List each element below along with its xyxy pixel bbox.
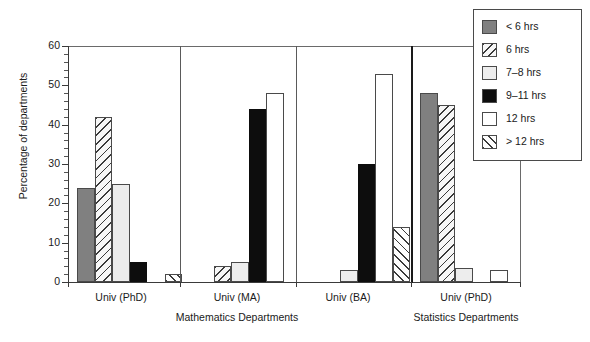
legend-item-2: 7–8 hrs bbox=[482, 64, 541, 81]
y-tick-label-text: 10 bbox=[32, 237, 60, 247]
legend-item-0: < 6 hrs bbox=[482, 18, 538, 35]
x-group-label-2: Univ (BA) bbox=[293, 291, 403, 303]
y-minor-tick bbox=[64, 235, 68, 236]
bar-univphd-1 bbox=[95, 117, 113, 282]
y-axis-title: Percentage of departments bbox=[17, 36, 29, 236]
legend-label-0: < 6 hrs bbox=[506, 21, 538, 32]
legend-label-2: 7–8 hrs bbox=[506, 67, 541, 78]
bar-univba-4 bbox=[375, 74, 393, 282]
y-tick-label-text: 50 bbox=[32, 79, 60, 89]
y-minor-tick bbox=[64, 62, 68, 63]
bar-univphd-4 bbox=[490, 270, 508, 282]
y-minor-tick bbox=[64, 227, 68, 228]
y-tick-label-30: 30 bbox=[26, 158, 60, 170]
y-minor-tick bbox=[64, 70, 68, 71]
x-group-label-0: Univ (PhD) bbox=[66, 291, 176, 303]
swatch-solid-gray-icon bbox=[482, 20, 497, 34]
swatch-solid-white-icon bbox=[482, 112, 497, 126]
y-axis-line bbox=[68, 46, 69, 283]
bar-univphd-3 bbox=[130, 262, 148, 282]
bar-univba-3 bbox=[358, 164, 376, 282]
y-minor-tick bbox=[64, 180, 68, 181]
y-tick-label-10: 10 bbox=[26, 237, 60, 249]
bar-univba-2 bbox=[340, 270, 358, 282]
y-tick-60 bbox=[62, 46, 68, 47]
x-tick bbox=[68, 282, 69, 287]
y-minor-tick bbox=[64, 274, 68, 275]
legend-label-1: 6 hrs bbox=[506, 44, 529, 55]
x-group-label-1: Univ (MA) bbox=[182, 291, 292, 303]
legend-label-5: > 12 hrs bbox=[506, 136, 544, 147]
x-axis-line bbox=[68, 282, 521, 283]
y-minor-tick bbox=[64, 266, 68, 267]
x-tick bbox=[296, 282, 297, 287]
x-group-label-3: Univ (PhD) bbox=[411, 291, 521, 303]
y-minor-tick bbox=[64, 156, 68, 157]
discipline-separator bbox=[411, 46, 413, 283]
y-tick-label-text: 40 bbox=[32, 119, 60, 129]
swatch-diagonal-slash-icon bbox=[482, 135, 497, 149]
bar-univma-4 bbox=[266, 93, 284, 282]
y-tick-label-text: 60 bbox=[32, 40, 60, 50]
y-minor-tick bbox=[64, 195, 68, 196]
legend-item-3: 9–11 hrs bbox=[482, 87, 546, 104]
bar-univphd-1 bbox=[438, 105, 456, 282]
y-tick-label-20: 20 bbox=[26, 197, 60, 209]
y-tick-label-text: 0 bbox=[32, 276, 60, 286]
plot-frame-top bbox=[68, 46, 521, 47]
x-tick bbox=[180, 282, 181, 287]
chart-figure: 0102030405060 Percentage of departments … bbox=[0, 0, 590, 342]
legend-item-5: > 12 hrs bbox=[482, 133, 544, 150]
legend-label-3: 9–11 hrs bbox=[506, 90, 546, 101]
y-minor-tick bbox=[64, 188, 68, 189]
y-tick-50 bbox=[62, 85, 68, 86]
group-separator-1 bbox=[180, 46, 181, 283]
y-minor-tick bbox=[64, 77, 68, 78]
bar-univma-1 bbox=[214, 266, 232, 282]
legend-item-4: 12 hrs bbox=[482, 110, 535, 127]
bar-univma-2 bbox=[231, 262, 249, 282]
bar-univphd-2 bbox=[112, 184, 130, 282]
bar-univphd-2 bbox=[455, 268, 473, 282]
y-tick-label-0: 0 bbox=[26, 276, 60, 288]
y-tick-label-50: 50 bbox=[26, 79, 60, 91]
y-minor-tick bbox=[64, 93, 68, 94]
y-minor-tick bbox=[64, 140, 68, 141]
swatch-diagonal-backslash-icon bbox=[482, 43, 497, 57]
swatch-solid-black-icon bbox=[482, 89, 497, 103]
y-minor-tick bbox=[64, 109, 68, 110]
legend: < 6 hrs6 hrs7–8 hrs9–11 hrs12 hrs> 12 hr… bbox=[473, 9, 582, 161]
y-minor-tick bbox=[64, 211, 68, 212]
x-discipline-label-0: Mathematics Departments bbox=[152, 311, 322, 323]
swatch-solid-lightgray-icon bbox=[482, 66, 497, 80]
y-minor-tick bbox=[64, 172, 68, 173]
legend-label-4: 12 hrs bbox=[506, 113, 535, 124]
bar-univphd-0 bbox=[77, 188, 95, 282]
y-tick-40 bbox=[62, 125, 68, 126]
y-minor-tick bbox=[64, 251, 68, 252]
bar-univma-3 bbox=[249, 109, 267, 282]
y-tick-label-60: 60 bbox=[26, 40, 60, 52]
y-minor-tick bbox=[64, 133, 68, 134]
y-tick-30 bbox=[62, 164, 68, 165]
y-tick-label-text: 20 bbox=[32, 197, 60, 207]
x-discipline-label-1: Statistics Departments bbox=[381, 311, 551, 323]
y-tick-label-text: 30 bbox=[32, 158, 60, 168]
x-tick bbox=[520, 282, 521, 287]
y-minor-tick bbox=[64, 258, 68, 259]
y-minor-tick bbox=[64, 219, 68, 220]
y-minor-tick bbox=[64, 54, 68, 55]
y-tick-label-40: 40 bbox=[26, 119, 60, 131]
y-tick-20 bbox=[62, 203, 68, 204]
legend-item-1: 6 hrs bbox=[482, 41, 529, 58]
y-minor-tick bbox=[64, 117, 68, 118]
bar-univphd-0 bbox=[420, 93, 438, 282]
bar-univba-5 bbox=[393, 227, 411, 282]
y-minor-tick bbox=[64, 148, 68, 149]
y-tick-10 bbox=[62, 243, 68, 244]
x-tick bbox=[411, 282, 412, 287]
group-separator-2 bbox=[296, 46, 297, 283]
y-minor-tick bbox=[64, 101, 68, 102]
